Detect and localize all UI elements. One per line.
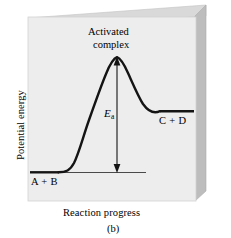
activation-energy-label: Ea xyxy=(104,108,114,119)
activated-complex-label-line1: Activated xyxy=(88,27,129,38)
y-axis-label: Potential energy xyxy=(16,90,27,160)
activation-energy-symbol: E xyxy=(104,107,111,119)
energy-diagram-figure: Activated complex A + B C + D Ea Potenti… xyxy=(0,0,231,238)
activated-complex-label-line2: complex xyxy=(93,40,129,51)
panel-letter: (b) xyxy=(107,224,119,235)
reactant-label: A + B xyxy=(31,177,58,188)
panel-right-bevel xyxy=(195,5,206,201)
product-label: C + D xyxy=(159,116,186,127)
activation-energy-subscript: a xyxy=(111,112,114,121)
x-axis-label: Reaction progress xyxy=(63,208,140,219)
